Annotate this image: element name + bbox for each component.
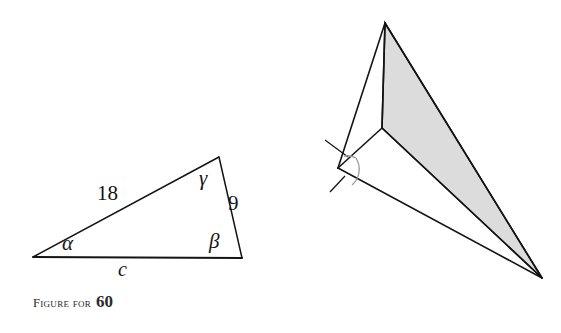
label-side-18: 18: [97, 181, 118, 206]
label-angle-gamma: γ: [199, 166, 207, 191]
segment-edge-30cm: [338, 168, 542, 278]
label-side-9: 9: [228, 191, 239, 216]
label-angle-alpha: α: [62, 231, 73, 256]
figure-60-caption-words: Figure for: [33, 296, 91, 310]
figure-page: 18 9 c α γ β Figure for60: [0, 0, 561, 333]
figure-61-drawing: [280, 0, 561, 333]
segment-side-18: [33, 157, 219, 257]
figure-60-caption-number: 60: [96, 292, 113, 311]
figure-61-panel: 20 cm θ 2 8 cm θ 30 cm Figure for61: [280, 0, 561, 333]
angle-arc-theta: [352, 158, 359, 185]
figure-60-caption: Figure for60: [33, 292, 113, 312]
figure-60-drawing: [0, 0, 281, 333]
segment-side-c: [33, 257, 242, 258]
label-angle-beta: β: [209, 229, 219, 254]
label-side-c: c: [118, 258, 127, 281]
figure-60-panel: 18 9 c α γ β Figure for60: [0, 0, 281, 333]
leader-theta: [330, 176, 345, 192]
